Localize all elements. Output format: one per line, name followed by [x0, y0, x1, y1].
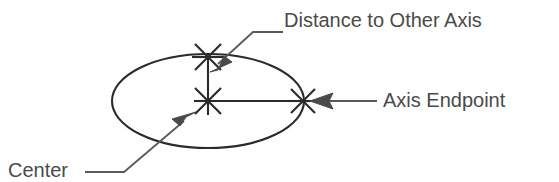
- endpoint-leader-line: [310, 93, 377, 109]
- diagram-canvas: Distance to Other Axis Axis Endpoint Cen…: [0, 0, 559, 182]
- label-center: Center: [8, 160, 68, 180]
- label-axis-endpoint: Axis Endpoint: [383, 90, 505, 110]
- endpoint-arrowhead: [310, 93, 333, 109]
- center-leader-line: [85, 112, 196, 172]
- label-distance-to-other-axis: Distance to Other Axis: [284, 10, 482, 30]
- center-arrowhead: [172, 112, 196, 126]
